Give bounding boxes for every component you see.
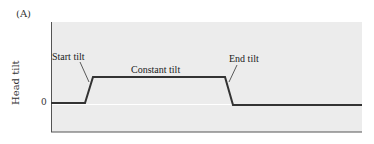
diagram-svg: Start tilt Constant tilt End tilt	[0, 0, 374, 144]
start-tilt-label: Start tilt	[52, 51, 85, 62]
constant-tilt-label: Constant tilt	[131, 64, 180, 75]
end-tilt-label: End tilt	[229, 53, 259, 64]
